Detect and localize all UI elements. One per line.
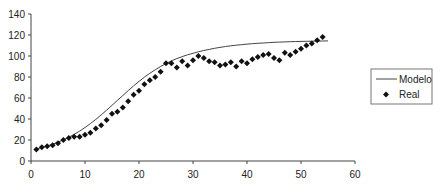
real-data-point xyxy=(255,54,261,60)
real-data-point xyxy=(98,122,104,128)
real-data-point xyxy=(60,137,66,143)
real-data-point xyxy=(195,53,201,59)
y-tick-label: 100 xyxy=(8,51,25,62)
real-data-point xyxy=(276,57,282,63)
real-data-point xyxy=(136,88,142,94)
y-tick-label: 80 xyxy=(14,72,26,83)
legend: Modelo Real xyxy=(371,69,432,104)
real-data-point xyxy=(271,55,277,61)
legend-label-real: Real xyxy=(399,89,420,100)
real-data-point xyxy=(120,104,126,110)
real-data-point xyxy=(282,50,288,56)
real-data-point xyxy=(228,59,234,65)
real-points xyxy=(33,34,325,152)
x-tick-label: 50 xyxy=(295,169,307,180)
y-tick-label: 60 xyxy=(14,93,26,104)
legend-label-modelo: Modelo xyxy=(399,74,432,85)
y-tick-label: 40 xyxy=(14,114,26,125)
x-axis: 0102030405060 xyxy=(28,161,361,180)
model-line xyxy=(36,41,328,149)
real-data-point xyxy=(222,61,228,67)
real-data-point xyxy=(287,52,293,58)
x-tick-label: 60 xyxy=(349,169,361,180)
real-data-point xyxy=(147,77,153,83)
real-data-point xyxy=(244,60,250,66)
real-data-point xyxy=(33,146,39,152)
real-data-point xyxy=(125,98,131,104)
real-data-point xyxy=(266,51,272,57)
real-data-point xyxy=(174,65,180,71)
real-data-point xyxy=(87,130,93,136)
real-data-point xyxy=(104,117,110,123)
real-data-point xyxy=(77,134,83,140)
real-data-point xyxy=(190,57,196,63)
real-data-point xyxy=(152,74,158,80)
real-data-point xyxy=(44,143,50,149)
real-data-point xyxy=(293,49,299,55)
real-data-point xyxy=(163,60,169,66)
real-data-point xyxy=(71,134,77,140)
real-data-point xyxy=(114,109,120,115)
x-tick-label: 40 xyxy=(241,169,253,180)
x-tick-label: 10 xyxy=(79,169,91,180)
real-data-point xyxy=(260,52,266,58)
real-data-point xyxy=(82,132,88,138)
real-data-point xyxy=(249,56,255,62)
real-data-point xyxy=(314,37,320,43)
y-axis: 020406080100120140 xyxy=(8,9,31,167)
x-tick-label: 30 xyxy=(187,169,199,180)
real-data-point xyxy=(168,60,174,66)
x-tick-label: 20 xyxy=(133,169,145,180)
real-data-point xyxy=(109,111,115,117)
real-data-point xyxy=(217,62,223,68)
y-tick-label: 20 xyxy=(14,135,26,146)
real-data-point xyxy=(206,58,212,64)
real-data-point xyxy=(93,125,99,131)
real-data-point xyxy=(131,92,137,98)
chart: 020406080100120140 0102030405060 Modelo … xyxy=(0,0,443,195)
real-data-point xyxy=(239,58,245,64)
real-data-point xyxy=(39,144,45,150)
real-data-point xyxy=(212,59,218,65)
real-data-point xyxy=(233,64,239,70)
y-tick-label: 140 xyxy=(8,9,25,20)
real-data-point xyxy=(320,34,326,40)
real-data-point xyxy=(158,69,164,75)
real-data-point xyxy=(141,81,147,87)
y-tick-label: 0 xyxy=(19,156,25,167)
real-data-point xyxy=(298,46,304,52)
real-data-point xyxy=(201,55,207,61)
real-data-point xyxy=(179,58,185,64)
y-tick-label: 120 xyxy=(8,30,25,41)
real-data-point xyxy=(185,62,191,68)
x-tick-label: 0 xyxy=(28,169,34,180)
real-data-point xyxy=(303,43,309,49)
